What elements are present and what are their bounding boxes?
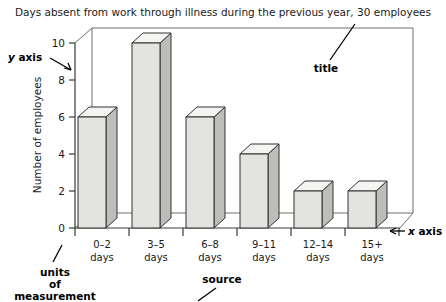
bar-15-plus-days bbox=[348, 181, 387, 228]
y-axis-title: Number of employees bbox=[31, 77, 43, 193]
x-category-label: 12–14 bbox=[303, 239, 333, 250]
x-category-unit: days bbox=[90, 252, 114, 263]
y-tick-label: 10 bbox=[52, 37, 65, 49]
y-tick-label: 6 bbox=[58, 111, 65, 123]
callout-source: source bbox=[198, 273, 242, 301]
y-tick-label: 8 bbox=[58, 74, 65, 86]
callout-y-axis-label: y axis bbox=[8, 51, 42, 63]
bar-6-8-days bbox=[186, 107, 225, 228]
y-tick-label: 2 bbox=[58, 185, 65, 197]
callout-x-axis: x axis bbox=[390, 225, 442, 237]
y-axis-tick-labels: 0 2 4 6 8 10 bbox=[52, 37, 66, 234]
callout-units-line-2: of bbox=[49, 278, 61, 290]
x-category-label: 6–8 bbox=[201, 239, 219, 250]
x-category-unit: days bbox=[306, 252, 330, 263]
y-tick-label: 4 bbox=[58, 148, 65, 160]
y-axis-ticks bbox=[69, 43, 75, 228]
y-axis: 0 2 4 6 8 10 Number of employees bbox=[31, 37, 75, 234]
callout-title-label: title bbox=[314, 62, 338, 74]
callout-x-axis-label: x axis bbox=[407, 225, 442, 237]
bar-3-5-days bbox=[132, 33, 171, 228]
callout-y-axis: y axis bbox=[8, 51, 71, 70]
x-axis-category-labels: 0–2 days 3–5 days 6–8 days 9–11 days 12–… bbox=[90, 239, 384, 263]
x-category-unit: days bbox=[252, 252, 276, 263]
x-category-label: 9–11 bbox=[252, 239, 276, 250]
callout-units-line-1: units bbox=[40, 266, 70, 278]
callout-source-label: source bbox=[202, 273, 241, 285]
x-category-label: 3–5 bbox=[147, 239, 165, 250]
chart-figure: Days absent from work through illness du… bbox=[0, 0, 446, 302]
bar-9-11-days bbox=[240, 144, 279, 228]
x-category-unit: days bbox=[198, 252, 222, 263]
bar-0-2-days bbox=[78, 107, 117, 228]
x-category-unit: days bbox=[360, 252, 384, 263]
x-category-label: 0–2 bbox=[93, 239, 111, 250]
x-axis: 0–2 days 3–5 days 6–8 days 9–11 days 12–… bbox=[75, 228, 400, 263]
callout-units-line-3: measurement bbox=[14, 290, 96, 302]
callout-units-of-measurement: units of measurement bbox=[14, 245, 96, 302]
callout-title: title bbox=[314, 24, 355, 74]
bars-group bbox=[78, 33, 387, 228]
bar-12-14-days bbox=[294, 181, 333, 228]
y-tick-label: 0 bbox=[58, 222, 65, 234]
x-category-unit: days bbox=[144, 252, 168, 263]
x-category-label: 15+ bbox=[361, 239, 382, 250]
chart-title: Days absent from work through illness du… bbox=[15, 6, 431, 18]
bar-chart-svg: Days absent from work through illness du… bbox=[0, 0, 446, 302]
x-axis-ticks bbox=[75, 228, 399, 236]
